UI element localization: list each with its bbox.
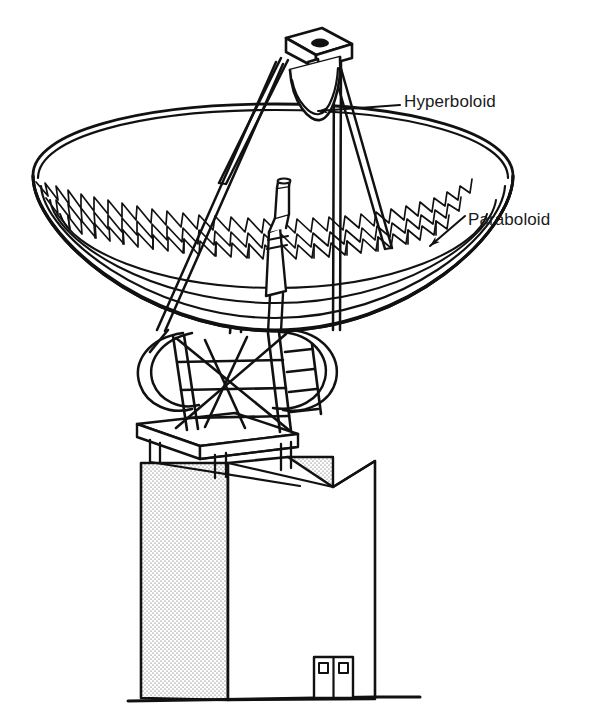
radio-telescope-illustration: [0, 0, 592, 725]
building-left-face: [141, 463, 228, 700]
apex-hole: [311, 39, 329, 48]
label-paraboloid: Paraboloid: [468, 210, 550, 230]
diagram-canvas: Hyperboloid Paraboloid: [0, 0, 592, 725]
dish-rim-ellipse: [33, 104, 513, 330]
label-hyperboloid: Hyperboloid: [404, 92, 496, 112]
equipment-building: [128, 457, 420, 701]
double-door[interactable]: [314, 657, 353, 698]
paraboloid-dish: [33, 104, 513, 331]
